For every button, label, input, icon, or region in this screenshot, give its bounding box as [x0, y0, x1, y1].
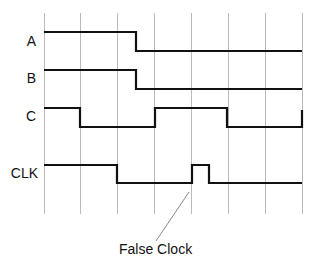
signal-b-waveform: [44, 70, 302, 89]
false-clock-pointer: [156, 192, 189, 241]
signal-label-clk: CLK: [0, 166, 38, 180]
signal-c-waveform: [44, 108, 302, 127]
signal-label-c: C: [0, 109, 36, 123]
signal-label-b: B: [0, 71, 36, 85]
signal-clk-waveform: [44, 165, 302, 183]
false-clock-annotation: False Clock: [119, 242, 192, 256]
signal-a-waveform: [44, 32, 302, 51]
signal-label-a: A: [0, 34, 36, 48]
timing-diagram: [0, 0, 314, 268]
